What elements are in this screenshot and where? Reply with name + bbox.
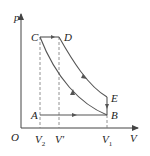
tick-label-vprime: V' — [55, 133, 65, 145]
origin-label: O — [11, 131, 19, 143]
x-axis-label: V — [130, 132, 138, 144]
pv-diagram-svg: p V O C D E A B V2 V' V1 — [0, 0, 150, 156]
point-label-a: A — [30, 109, 38, 121]
point-label-c: C — [31, 31, 39, 43]
point-label-e: E — [110, 92, 118, 104]
tick-label-v2: V2 — [35, 133, 46, 148]
point-label-d: D — [63, 31, 72, 43]
pv-diagram: p V O C D E A B V2 V' V1 — [0, 0, 150, 156]
arrow-e-b-icon — [105, 104, 109, 109]
arrow-c-d-icon — [51, 35, 55, 39]
arrow-d-e-icon — [81, 74, 87, 79]
point-label-b: B — [111, 109, 118, 121]
process-d-e — [59, 37, 107, 97]
arrow-a-b-icon — [72, 113, 77, 117]
tick-label-v1: V1 — [102, 133, 113, 148]
process-b-c — [40, 37, 107, 115]
y-axis-label: p — [13, 11, 20, 23]
